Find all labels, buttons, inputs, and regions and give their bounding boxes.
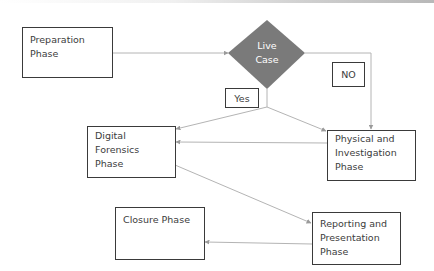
digital-forensics-phase-node[interactable]: Digital Forensics Phase [87,126,176,178]
decision-label-line2: Case [237,53,297,67]
live-case-decision-label: Live Case [237,39,297,67]
edge-decision-to-digital-forensics [176,107,267,129]
physical-label-line1: Physical and [335,132,408,146]
digital-forensics-label-line2: Phase [95,157,168,171]
reporting-presentation-phase-node[interactable]: Reporting and Presentation Phase [312,212,401,265]
preparation-label-line1: Preparation [30,33,105,47]
digital-forensics-label-line1: Digital Forensics [95,129,168,157]
reporting-label-line2: Presentation [320,231,393,245]
no-edge-label: NO [332,62,365,87]
edge-reporting-to-closure [205,242,312,244]
yes-label-text: Yes [234,93,249,104]
edge-physical-to-digital-forensics [176,142,327,143]
preparation-phase-node[interactable]: Preparation Phase [22,27,113,78]
no-label-text: NO [341,69,356,80]
preparation-label-line2: Phase [30,47,105,61]
physical-investigation-phase-node[interactable]: Physical and Investigation Phase [327,130,416,181]
yes-edge-label: Yes [225,88,259,108]
physical-label-line3: Phase [335,160,408,174]
closure-label-line1: Closure Phase [123,213,197,227]
physical-label-line2: Investigation [335,146,408,160]
decision-label-line1: Live [237,39,297,53]
edge-decision-to-physical [267,107,326,131]
reporting-label-line1: Reporting and [320,217,393,231]
closure-phase-node[interactable]: Closure Phase [115,207,205,260]
reporting-label-line3: Phase [320,245,393,259]
